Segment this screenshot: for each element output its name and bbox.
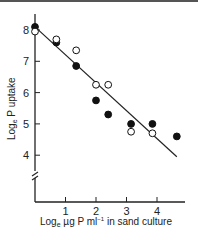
filled-point (128, 121, 135, 128)
open-point (93, 81, 100, 88)
open-point (53, 36, 60, 43)
open-point (73, 47, 80, 54)
axis-break-mark (32, 172, 38, 176)
open-point (149, 130, 156, 137)
y-tick-label: 6 (23, 87, 29, 99)
y-tick-label: 5 (23, 118, 29, 130)
tick-labels: 456781234 (23, 24, 160, 217)
x-axis-title: Loge µg P ml−1 in sand culture (40, 216, 172, 228)
y-tick-label: 7 (23, 55, 29, 67)
open-point (128, 128, 135, 135)
y-axis-title: Loge P uptake (6, 77, 18, 140)
scatter-chart: 456781234 Loge µg P ml−1 in sand culture… (0, 0, 198, 240)
filled-point (93, 97, 100, 104)
open-point (105, 81, 112, 88)
data-points (32, 23, 181, 139)
open-point (32, 28, 39, 35)
filled-point (105, 111, 112, 118)
y-tick-label: 4 (23, 149, 29, 161)
y-tick-label: 8 (23, 24, 29, 36)
filled-point (173, 133, 180, 140)
filled-point (73, 63, 80, 70)
filled-point (149, 121, 156, 128)
